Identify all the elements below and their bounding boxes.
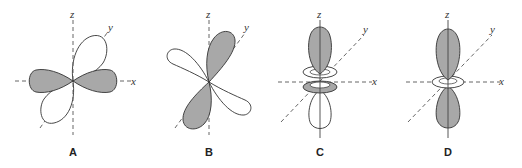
y-axis-label: y xyxy=(107,21,113,33)
panel-label-c: C xyxy=(316,146,324,158)
x-axis-label: x xyxy=(130,75,136,87)
panel-a: z y x A xyxy=(15,8,136,158)
shaded-lobe-lower xyxy=(183,82,211,129)
y-axis-label: y xyxy=(243,21,249,33)
z-axis-label: z xyxy=(205,8,211,20)
panel-b: z y B xyxy=(167,8,251,158)
x-axis-label: x xyxy=(498,75,504,87)
z-axis-label: z xyxy=(69,8,75,20)
white-lobe-right xyxy=(209,82,251,115)
panel-label-b: B xyxy=(205,146,213,158)
panel-d: z y x D xyxy=(406,8,504,158)
orbital-diagram: z y x A z y B z y x C xyxy=(0,0,522,168)
z-axis-label: z xyxy=(444,8,450,20)
panel-label-d: D xyxy=(444,146,452,158)
panel-c: z y x C xyxy=(278,8,377,158)
white-lobe-left xyxy=(167,49,209,82)
x-axis-label: x xyxy=(371,75,377,87)
y-axis-label: y xyxy=(362,23,368,35)
y-axis-label: y xyxy=(489,23,495,35)
shaded-lobe-upper xyxy=(207,31,235,82)
z-axis-label: z xyxy=(316,8,322,20)
panel-label-a: A xyxy=(69,146,77,158)
